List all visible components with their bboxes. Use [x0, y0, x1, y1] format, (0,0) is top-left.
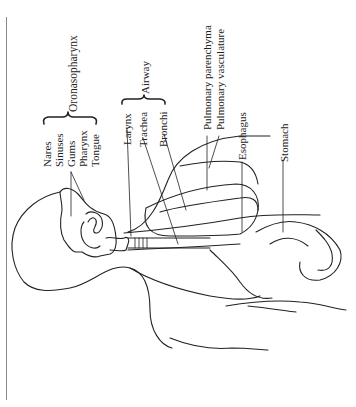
label-tongue: Tongue	[90, 134, 101, 167]
label-trachea: Trachea	[138, 112, 149, 147]
oronasopharynx-brace	[44, 112, 97, 124]
oral-cavity	[81, 222, 100, 248]
arm-contour	[226, 301, 346, 312]
upper-lung	[128, 136, 270, 232]
label-pulmonary-vasculature: Pulmonary vasculature	[215, 29, 226, 130]
label-airway: Airway	[140, 61, 151, 94]
label-pulmonary-parenchyma: Pulmonary parenchyma	[202, 25, 213, 130]
nasal-cavity	[86, 212, 102, 233]
lower-lung	[145, 184, 258, 236]
label-nares: Nares	[42, 141, 53, 167]
hip-contour	[170, 338, 268, 350]
label-larynx: Larynx	[122, 113, 133, 145]
stomach-outline	[256, 221, 341, 280]
label-gums: Gums	[66, 141, 77, 167]
pulmonary-vessel	[180, 161, 258, 184]
label-stomach: Stomach	[279, 124, 290, 163]
stomach-curve	[316, 230, 332, 270]
lung-fissure	[160, 198, 258, 213]
label-bronchi: Bronchi	[158, 112, 169, 147]
anatomy-drawing	[0, 0, 356, 407]
label-sinuses: Sinuses	[54, 133, 65, 167]
chest-contour	[210, 250, 272, 298]
label-oronasopharynx: Oronasopharynx	[68, 35, 79, 112]
tongue-shape	[106, 237, 129, 250]
label-pharynx: Pharynx	[78, 130, 89, 167]
head-outline	[12, 192, 172, 348]
airway-brace	[122, 95, 165, 104]
trachea-rings	[135, 238, 147, 248]
label-esophagus: Esophagus	[237, 112, 248, 160]
